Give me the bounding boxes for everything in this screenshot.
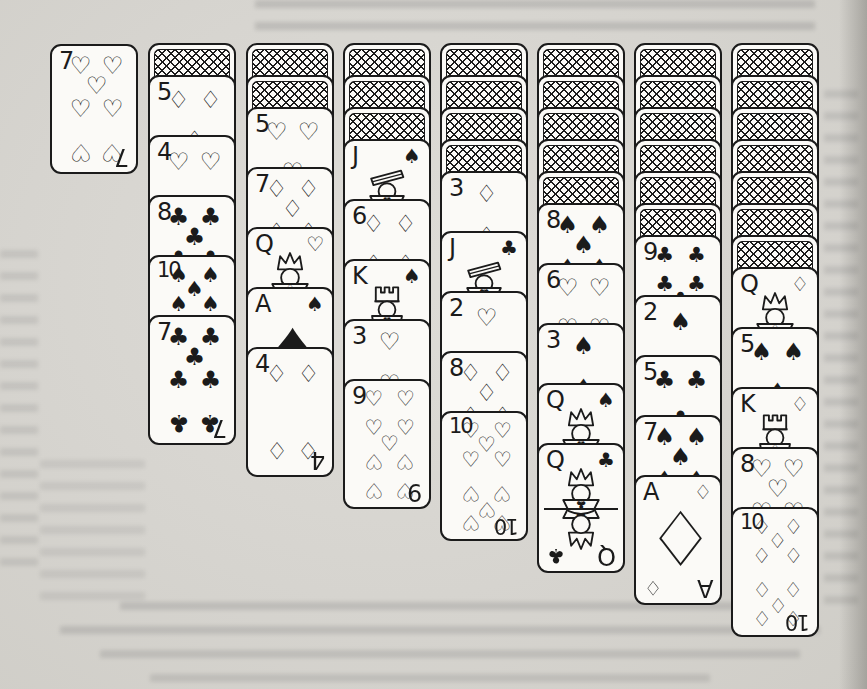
queen-figure-icon: ♣	[553, 498, 609, 558]
diamond-pip-icon: ♢	[784, 545, 803, 566]
diamond-pip-icon: ♢	[298, 438, 320, 462]
card-4-diamonds[interactable]: 44♢♢♢♢	[246, 347, 334, 477]
diamond-pip-icon: ♢	[266, 362, 288, 386]
heart-pip-icon: ♡	[461, 511, 480, 532]
card-rank-label: J	[449, 236, 455, 260]
club-pip-icon: ♣	[168, 368, 190, 392]
spade-pip-icon: ♠	[573, 334, 595, 358]
card-7-hearts[interactable]: 77♡♡♡♡♡♡♡	[50, 44, 138, 174]
heart-pip-icon: ♡	[396, 388, 415, 409]
diamond-pip-icon: ♢	[266, 438, 288, 462]
heart-pip-icon: ♡	[102, 140, 124, 164]
heart-pip-icon: ♡	[364, 450, 383, 471]
page-edge-shadow	[839, 0, 867, 689]
heart-pip-icon: ♡	[168, 150, 190, 174]
diamond-pip-icon: ♢	[646, 502, 714, 578]
spade-pip-icon: ♠	[169, 293, 188, 314]
heart-pip-icon: ♡	[266, 120, 288, 144]
pip-field: ♢♢♢♢	[248, 349, 332, 475]
diamond-pip-icon: ♢	[298, 362, 320, 386]
diamond-pip-icon: ♢	[784, 607, 803, 628]
diamond-pip-icon: ♢	[752, 545, 771, 566]
scanned-book-page: 77♡♡♡♡♡♡♡55♢♢♢♢♢44♡♡♡♡88♣♣♣♣♣♣♣♣1010♠♠♠♠…	[0, 0, 867, 689]
heart-pip-icon: ♡	[379, 330, 401, 354]
pip-field: ♢♢♢♢♢♢♢♢♢♢	[733, 509, 817, 635]
tableau-column-5: 88♠♠♠♠♠♠♠♠66♡♡♡♡♡♡33♠♠♠QQ♠♠ ♠ ♠QQ♣♣ ♣ ♣	[537, 0, 625, 689]
heart-pip-icon: ♡	[102, 97, 124, 121]
heart-pip-icon: ♡	[396, 479, 415, 500]
tableau-column-6: 99♣♣♣♣♣♣♣♣♣22♠♠55♣♣♣♣♣77♠♠♠♠♠♠♠AA♢♢♢	[634, 0, 722, 689]
heart-pip-icon: ♡	[70, 140, 92, 164]
pip-field: ♣♣♣♣♣♣♣	[150, 317, 234, 443]
heart-pip-icon: ♡	[200, 150, 222, 174]
tableau-column-7: QQ♢♢ ♢ ♢55♠♠♠♠♠KK♢♢ ♢ ♢88♡♡♡♡♡♡♡♡1010♢♢♢…	[731, 0, 819, 689]
tableau-column-2: 55♡♡♡♡♡77♢♢♢♢♢♢♢QQ♡♡ ♡ ♡AA♠♠♠44♢♢♢♢	[246, 0, 334, 689]
spade-pip-icon: ♠	[201, 293, 220, 314]
club-pip-icon: ♣	[168, 411, 190, 435]
heart-pip-icon: ♡	[298, 120, 320, 144]
card-7-clubs[interactable]: 77♣♣♣♣♣♣♣	[148, 315, 236, 445]
diamond-pip-icon: ♢	[363, 212, 385, 236]
heart-pip-icon: ♡	[493, 449, 512, 470]
tableau-column-3: JJ♠♠ ♠ ♠66♢♢♢♢♢♢KK♠♠ ♠ ♠33♡♡♡99♡♡♡♡♡♡♡♡♡	[343, 0, 431, 689]
pip-field: ♡♡♡♡♡♡♡♡♡	[345, 381, 429, 507]
scanned-text-ghost	[0, 250, 38, 570]
club-pip-icon: ♣	[687, 244, 706, 265]
diamond-pip-icon: ♢	[168, 88, 190, 112]
card-A-diamonds[interactable]: AA♢♢♢	[634, 475, 722, 605]
card-Q-clubs[interactable]: QQ♣♣ ♣ ♣	[537, 443, 625, 573]
heart-pip-icon: ♡	[70, 97, 92, 121]
card-10-diamonds[interactable]: 1010♢♢♢♢♢♢♢♢♢♢	[731, 507, 819, 637]
heart-pip-icon: ♡	[364, 388, 383, 409]
spade-pip-icon: ♠	[670, 310, 692, 334]
tableau-column-4: 33♢♢♢JJ♣♣ ♣ ♣22♡♡88♢♢♢♢♢♢♢♢1010♡♡♡♡♡♡♡♡♡…	[440, 0, 528, 689]
club-pip-icon: ♣	[655, 244, 674, 265]
pip-field: ♡♡♡♡♡♡♡♡♡♡	[442, 413, 526, 539]
pip-field: ♡♡♡♡♡♡♡	[52, 46, 136, 172]
spade-pip-icon: ♠	[751, 340, 773, 364]
heart-pip-icon: ♡	[589, 276, 611, 300]
heart-pip-icon: ♡	[396, 450, 415, 471]
scanned-text-ghost	[824, 90, 858, 610]
card-rank-label: J	[352, 144, 358, 168]
pip-field: ♢	[636, 477, 720, 603]
card-9-hearts[interactable]: 99♡♡♡♡♡♡♡♡♡	[343, 379, 431, 509]
club-pip-icon: ♣	[686, 368, 708, 392]
court-divider-line	[544, 508, 618, 510]
diamond-pip-icon: ♢	[752, 607, 771, 628]
heart-pip-icon: ♡	[557, 276, 579, 300]
heart-pip-icon: ♡	[461, 449, 480, 470]
scanned-text-ghost	[40, 460, 145, 610]
diamond-pip-icon: ♢	[476, 182, 498, 206]
heart-pip-icon: ♡	[364, 479, 383, 500]
spade-pip-icon: ♠	[783, 340, 805, 364]
diamond-pip-icon: ♢	[200, 88, 222, 112]
card-10-hearts[interactable]: 1010♡♡♡♡♡♡♡♡♡♡	[440, 411, 528, 541]
club-pip-icon: ♣	[200, 368, 222, 392]
heart-pip-icon: ♡	[476, 306, 498, 330]
tableau-column-1: 55♢♢♢♢♢44♡♡♡♡88♣♣♣♣♣♣♣♣1010♠♠♠♠♠♠♠♠♠♠77♣…	[148, 0, 236, 689]
club-pip-icon: ♣	[654, 368, 676, 392]
diamond-pip-icon: ♢	[395, 212, 417, 236]
club-pip-icon: ♣	[200, 411, 222, 435]
heart-pip-icon: ♡	[493, 511, 512, 532]
